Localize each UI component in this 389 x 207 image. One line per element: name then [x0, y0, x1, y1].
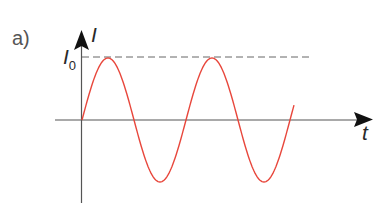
y-axis-label: I: [91, 23, 97, 46]
amplitude-label: I0: [63, 45, 76, 73]
x-axis-label: t: [362, 121, 369, 144]
amplitude-label-subscript: 0: [69, 58, 76, 73]
sine-current-diagram: a) I t I0: [0, 0, 389, 207]
panel-label: a): [12, 27, 30, 49]
